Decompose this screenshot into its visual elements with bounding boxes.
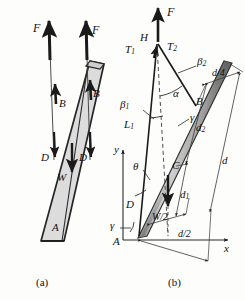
angle-label-beta1: β1	[120, 99, 129, 111]
point-label-C: C	[172, 160, 179, 171]
panel-b-caption: (b)	[168, 277, 181, 288]
d2-subscript: 2	[202, 125, 206, 134]
force-label-T2: T2	[167, 41, 177, 53]
length-label-d2: d2	[196, 122, 205, 134]
force-D-right-arrow	[90, 132, 91, 157]
d1-subscript: 1	[186, 192, 190, 201]
force-label-W: W	[57, 172, 66, 183]
length-label-d-over-4: d/4	[212, 68, 225, 78]
point-label-A-panel-b: A	[113, 236, 120, 247]
angle-arc-theta	[135, 190, 146, 196]
force-label-D-left: D	[41, 152, 49, 163]
figure-vector-graphics	[0, 0, 245, 300]
length-label-d: d	[222, 155, 228, 166]
length-label-d1: d1	[180, 189, 189, 201]
L1-subscript: 1	[130, 122, 134, 131]
angle-label-gamma-upper: γ	[190, 112, 194, 123]
force-label-D-right: D	[79, 152, 87, 163]
panel-a-caption: (a)	[36, 277, 48, 288]
witness-top-bar	[230, 64, 243, 72]
point-label-D-panel-b: D	[126, 199, 134, 210]
point-label-B-panel-b: B	[196, 96, 203, 107]
leader-gamma-upper	[178, 119, 189, 126]
angle-label-alpha: α	[173, 88, 179, 99]
T1-subscript: 1	[131, 47, 135, 56]
force-label-B-right: B	[93, 88, 100, 99]
force-B-right-arrow	[90, 80, 91, 100]
length-label-L1: L1	[124, 119, 134, 131]
leader-beta2	[178, 66, 196, 73]
axis-label-x: x	[224, 243, 229, 254]
length-label-W-over-2: W/2	[152, 212, 168, 222]
beta2-subscript: 2	[202, 59, 206, 68]
beta1-subscript: 1	[125, 102, 129, 111]
panel-b-graphics	[120, 8, 243, 261]
force-B-left-arrow	[55, 84, 56, 104]
length-label-d-over-2: d/2	[178, 229, 191, 239]
force-F-left-arrow	[49, 21, 50, 60]
point-label-A-panel-a: A	[52, 222, 59, 233]
witness-d-bottom	[208, 210, 211, 261]
T2-subscript: 2	[173, 44, 177, 53]
dim-line-d-over-2	[141, 241, 208, 261]
axis-label-y: y	[114, 144, 119, 155]
angle-arc-gamma-lower	[130, 222, 134, 232]
angle-label-beta2: β2	[197, 56, 206, 68]
force-F-right-arrow	[86, 21, 87, 60]
force-D-left-arrow	[54, 132, 55, 157]
force-label-F-left: F	[33, 22, 40, 34]
force-label-F-right: F	[92, 24, 99, 36]
force-label-B-left: B	[59, 98, 66, 109]
figure-container: F F B B D D W A (a) F H T1 T2 β2 α β1 L1…	[0, 0, 245, 300]
force-label-H: H	[140, 32, 148, 43]
force-label-F-panel-b: F	[167, 6, 174, 18]
leader-beta1	[143, 110, 154, 119]
force-label-T1: T1	[125, 44, 135, 56]
angle-label-theta: θ	[133, 161, 138, 172]
angle-label-gamma-lower: γ	[110, 220, 114, 231]
panel-a-graphics	[41, 21, 104, 241]
